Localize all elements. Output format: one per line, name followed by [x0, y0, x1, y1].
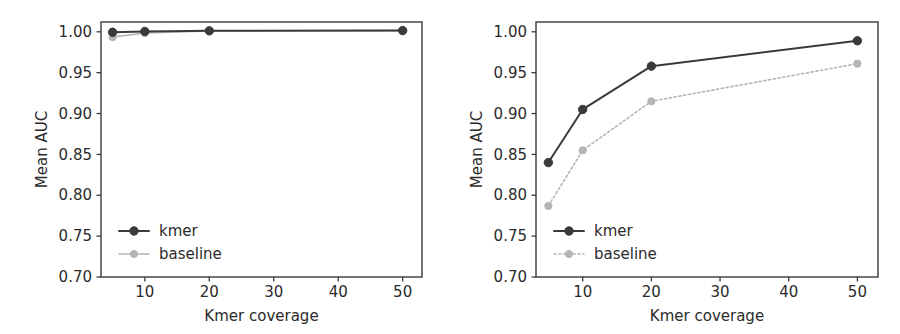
data-point-baseline	[648, 98, 655, 105]
x-axis-label: Kmer coverage	[204, 307, 318, 325]
plot-area-right: 0.700.750.800.850.900.951.001020304050Km…	[450, 0, 900, 334]
x-axis-tick-label: 40	[329, 283, 348, 301]
x-axis-tick-label: 40	[779, 283, 798, 301]
y-axis-tick-label: 1.00	[494, 23, 527, 41]
data-point-kmer	[398, 26, 406, 34]
x-axis-tick-label: 30	[264, 283, 283, 301]
legend-label-kmer: kmer	[159, 222, 199, 240]
legend-marker-baseline	[565, 250, 572, 257]
y-axis-label: Mean AUC	[468, 111, 486, 188]
x-axis-label: Kmer coverage	[650, 307, 764, 325]
data-point-baseline	[579, 147, 586, 154]
y-axis-label: Mean AUC	[33, 111, 51, 188]
y-axis-tick-label: 0.85	[494, 146, 527, 164]
figure-two-panel-line-charts: 0.700.750.800.850.900.951.001020304050Km…	[0, 0, 900, 334]
x-axis-tick-label: 50	[848, 283, 867, 301]
y-axis-tick-label: 1.00	[59, 23, 92, 41]
y-axis-tick-label: 0.90	[59, 105, 92, 123]
y-axis-tick-label: 0.70	[59, 268, 92, 286]
x-axis-tick-label: 30	[711, 283, 730, 301]
y-axis-tick-label: 0.70	[494, 268, 527, 286]
y-axis-tick-label: 0.85	[59, 146, 92, 164]
y-axis-tick-label: 0.90	[494, 105, 527, 123]
y-axis-tick-label: 0.80	[59, 186, 92, 204]
legend-label-baseline: baseline	[159, 245, 222, 263]
x-axis-tick-label: 20	[200, 283, 219, 301]
legend-label-kmer: kmer	[594, 222, 634, 240]
y-axis-tick-label: 0.95	[494, 64, 527, 82]
y-axis-tick-label: 0.95	[59, 64, 92, 82]
data-point-baseline	[545, 202, 552, 209]
chart-panel-left: 0.700.750.800.850.900.951.001020304050Km…	[0, 0, 450, 334]
x-axis-tick-label: 10	[135, 283, 154, 301]
data-point-kmer	[205, 27, 213, 35]
data-point-kmer	[141, 27, 149, 35]
legend-marker-baseline	[130, 250, 137, 257]
x-axis-tick-label: 20	[642, 283, 661, 301]
plot-area-left: 0.700.750.800.850.900.951.001020304050Km…	[0, 0, 450, 334]
x-axis-tick-label: 50	[393, 283, 412, 301]
data-point-kmer	[578, 105, 586, 113]
data-point-kmer	[647, 62, 655, 70]
y-axis-tick-label: 0.80	[494, 186, 527, 204]
legend-marker-kmer	[565, 227, 573, 235]
y-axis-tick-label: 0.75	[59, 227, 92, 245]
data-point-kmer	[108, 28, 116, 36]
x-axis-tick-label: 10	[573, 283, 592, 301]
legend-label-baseline: baseline	[594, 245, 657, 263]
y-axis-tick-label: 0.75	[494, 227, 527, 245]
data-point-kmer	[853, 37, 861, 45]
data-point-baseline	[854, 60, 861, 67]
legend-marker-kmer	[130, 227, 138, 235]
chart-panel-right: 0.700.750.800.850.900.951.001020304050Km…	[450, 0, 900, 334]
data-point-kmer	[544, 158, 552, 166]
